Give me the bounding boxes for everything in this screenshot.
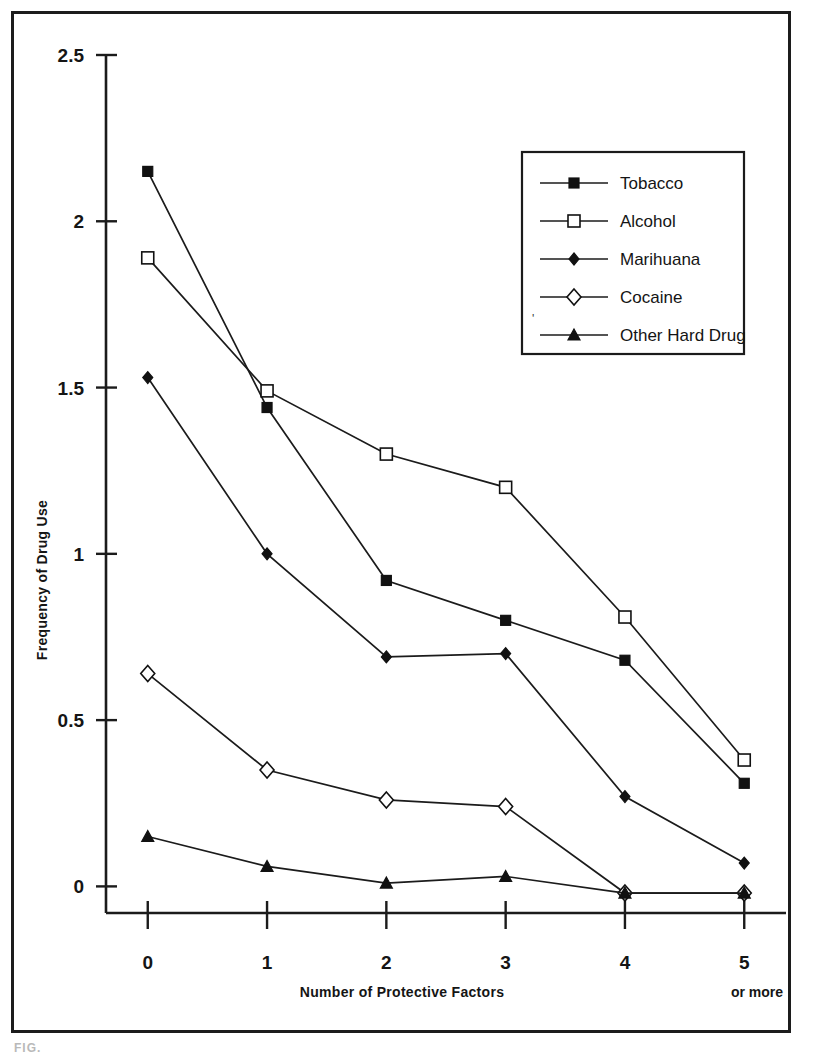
- line-chart: 00.511.522.5 012345 Frequency of Drug Us…: [0, 0, 814, 1056]
- data-point-filled-square: [381, 575, 391, 585]
- y-tick-label: 0: [73, 876, 84, 897]
- data-point-open-square: [380, 448, 392, 460]
- y-axis-title: Frequency of Drug Use: [34, 500, 50, 660]
- data-point-filled-square: [569, 178, 579, 188]
- data-point-open-square: [619, 611, 631, 623]
- series-line: [148, 837, 744, 894]
- chart-legend: ' TobaccoAlcoholMarihuanaCocaineOther Ha…: [522, 152, 746, 354]
- data-point-open-square: [568, 215, 580, 227]
- x-tick-label: 3: [500, 952, 511, 973]
- data-point-filled-diamond: [739, 857, 749, 869]
- data-point-open-diamond: [141, 666, 155, 682]
- x-axis-tick-labels: 012345: [142, 952, 749, 973]
- data-point-open-square: [142, 252, 154, 264]
- legend-stray-mark: ': [532, 312, 534, 326]
- x-axis-title: Number of Protective Factors: [300, 984, 504, 1000]
- y-tick-label: 2.5: [58, 45, 85, 66]
- x-axis-tick-sublabel: or more: [731, 984, 783, 1000]
- series-line: [148, 674, 744, 893]
- data-point-open-diamond: [379, 792, 393, 808]
- y-tick-label: 2: [73, 211, 84, 232]
- legend-label: Cocaine: [620, 288, 682, 307]
- data-point-open-square: [738, 754, 750, 766]
- figure-caption-stub: FIG.: [14, 1041, 41, 1055]
- legend-label: Marihuana: [620, 250, 701, 269]
- x-tick-label: 2: [381, 952, 392, 973]
- series-line: [148, 378, 744, 864]
- x-tick-label: 0: [142, 952, 153, 973]
- y-tick-label: 0.5: [58, 710, 85, 731]
- data-point-filled-square: [739, 778, 749, 788]
- x-tick-label: 4: [620, 952, 631, 973]
- data-point-filled-square: [262, 403, 272, 413]
- legend-label: Alcohol: [620, 212, 676, 231]
- x-tick-label: 1: [262, 952, 273, 973]
- data-point-filled-triangle: [142, 831, 154, 842]
- series-cocaine: [141, 666, 751, 901]
- x-axis-ticks: [148, 901, 744, 929]
- legend-label: Other Hard Drug: [620, 326, 746, 345]
- series-other-hard-drug: [142, 831, 750, 899]
- data-point-open-square: [261, 385, 273, 397]
- data-point-open-diamond: [499, 799, 513, 815]
- series-marihuana: [143, 372, 749, 870]
- data-point-open-diamond: [260, 762, 274, 778]
- y-axis-tick-labels: 00.511.522.5: [58, 45, 85, 897]
- data-point-filled-diamond: [381, 651, 391, 663]
- chart-svg: 00.511.522.5 012345 Frequency of Drug Us…: [0, 0, 814, 1056]
- data-point-open-square: [500, 481, 512, 493]
- data-point-filled-square: [501, 615, 511, 625]
- y-tick-label: 1: [73, 544, 84, 565]
- x-tick-label: 5: [739, 952, 750, 973]
- legend-label: Tobacco: [620, 174, 683, 193]
- y-tick-label: 1.5: [58, 378, 85, 399]
- data-point-filled-square: [143, 166, 153, 176]
- data-point-filled-square: [620, 655, 630, 665]
